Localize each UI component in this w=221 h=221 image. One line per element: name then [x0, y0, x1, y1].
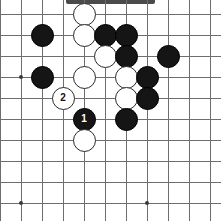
stone-white[interactable]: [115, 87, 138, 110]
move-number-label: 2: [60, 93, 66, 103]
star-point: [19, 75, 23, 79]
stone-white[interactable]: [73, 66, 96, 89]
grid-line-horizontal: [0, 161, 221, 162]
go-diagram-screenshot: 21: [0, 0, 221, 221]
grid-line-vertical: [210, 0, 211, 221]
grid-line-vertical: [0, 0, 1, 221]
grid-line-horizontal: [0, 119, 221, 120]
stone-black[interactable]: [115, 45, 138, 68]
stone-move-2[interactable]: 2: [52, 87, 75, 110]
grid-line-vertical: [21, 0, 22, 221]
go-board[interactable]: 21: [0, 0, 221, 221]
grid-line-horizontal: [0, 182, 221, 183]
stone-black[interactable]: [115, 24, 138, 47]
grid-line-horizontal: [0, 140, 221, 141]
grid-line-vertical: [189, 0, 190, 221]
star-point: [19, 201, 23, 205]
stone-white[interactable]: [73, 129, 96, 152]
stone-black[interactable]: [115, 108, 138, 131]
stone-white[interactable]: [115, 66, 138, 89]
grid-line-horizontal: [0, 98, 221, 99]
stone-black[interactable]: [31, 66, 54, 89]
grid-line-horizontal: [0, 203, 221, 204]
stone-white[interactable]: [94, 45, 117, 68]
stone-black[interactable]: [31, 24, 54, 47]
stone-black[interactable]: [157, 45, 180, 68]
grid-line-vertical: [168, 0, 169, 221]
stone-black[interactable]: [136, 87, 159, 110]
stone-white[interactable]: [73, 3, 96, 26]
move-number-label: 1: [81, 114, 87, 124]
grid-line-vertical: [147, 0, 148, 221]
stone-black[interactable]: [94, 24, 117, 47]
stone-white[interactable]: [73, 24, 96, 47]
star-point: [145, 201, 149, 205]
stone-black[interactable]: [136, 66, 159, 89]
stone-move-1[interactable]: 1: [73, 108, 96, 131]
grid-line-horizontal: [0, 14, 221, 15]
grid-line-vertical: [63, 0, 64, 221]
